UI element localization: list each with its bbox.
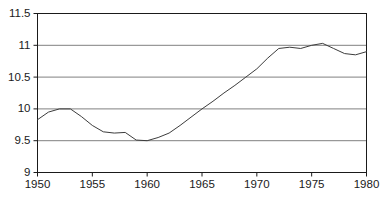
y-tick-label: 9 — [24, 166, 30, 178]
x-tick-label: 1980 — [354, 178, 380, 190]
x-tick-label: 1965 — [189, 178, 215, 190]
y-tick-label: 10.5 — [8, 71, 30, 83]
y-tick-label: 11 — [19, 39, 31, 51]
x-tick-label: 1975 — [299, 178, 325, 190]
x-tick-label: 1970 — [244, 178, 270, 190]
chart-canvas: 99.51010.51111.5 19501955196019651970197… — [0, 0, 387, 208]
y-tick-label: 11.5 — [9, 7, 31, 19]
x-tick-label: 1950 — [25, 178, 51, 190]
y-tick-label: 9.5 — [15, 134, 31, 146]
y-tick-label: 10 — [18, 102, 31, 114]
x-tick-label: 1960 — [134, 178, 160, 190]
x-tick-label: 1955 — [80, 178, 106, 190]
line-chart: 99.51010.51111.5 19501955196019651970197… — [0, 0, 387, 208]
